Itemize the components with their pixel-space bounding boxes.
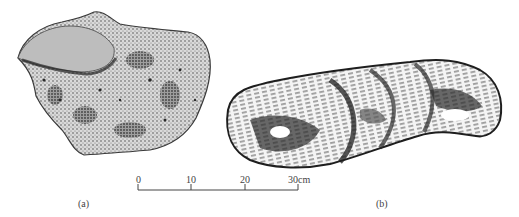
scale-tick-30cm: 30cm — [288, 174, 310, 185]
scale-tick-20: 20 — [240, 174, 250, 185]
artifact-b-illustration — [210, 40, 510, 175]
scale-tick-10: 10 — [186, 174, 196, 185]
panel-b-caption: (b) — [376, 198, 388, 209]
artifact-a-illustration — [0, 0, 230, 170]
panel-a-caption: (a) — [78, 198, 89, 209]
scale-tick-0: 0 — [136, 174, 141, 185]
